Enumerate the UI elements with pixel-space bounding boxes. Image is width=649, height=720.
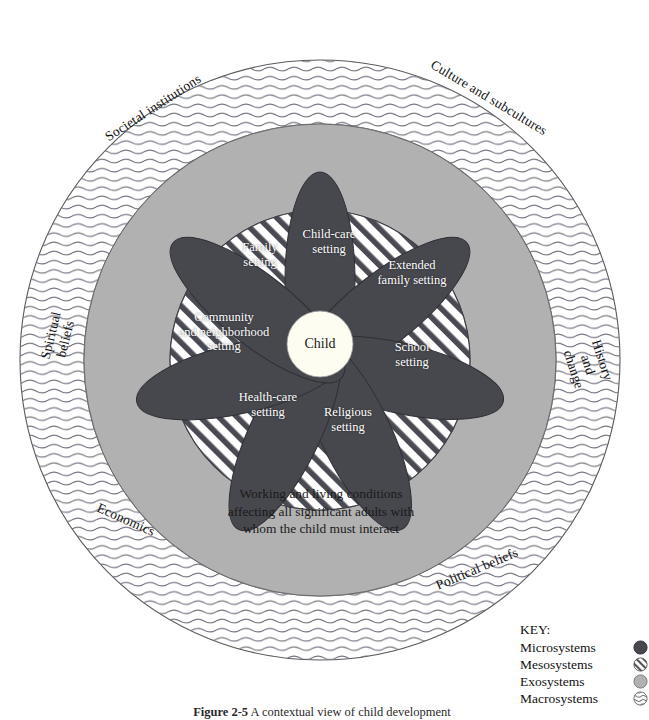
label-child-care-setting: Child-care setting [287, 227, 371, 256]
health-care-line-1: Health-care [222, 390, 314, 405]
figure-caption-text: A contextual view of child development [251, 705, 451, 719]
legend-label-exosystems: Exosystems [520, 674, 632, 690]
solid-dark-circle-icon [632, 639, 649, 656]
community-line-2: and neighborhood [163, 325, 285, 340]
child-care-line-1: Child-care [287, 227, 371, 242]
community-line-3: setting [163, 339, 285, 354]
legend-label-microsystems: Microsystems [520, 640, 632, 656]
family-line-2: setting [218, 255, 302, 270]
extended-line-1: Extended [359, 258, 465, 273]
child-label: Child [280, 336, 360, 352]
figure-caption: Figure 2-5 A contextual view of child de… [0, 705, 644, 720]
label-health-care-setting: Health-care setting [222, 390, 314, 419]
label-extended-family-setting: Extended family setting [359, 258, 465, 287]
exosystem-line-2: affecting all significant adults with [176, 503, 466, 521]
child-care-line-2: setting [287, 242, 371, 257]
label-community-setting: Community and neighborhood setting [163, 310, 285, 354]
exosystem-line-3: whom the child must interact [176, 520, 466, 538]
community-line-1: Community [163, 310, 285, 325]
exosystem-description: Working and living conditions affecting … [176, 485, 466, 538]
legend-row-mesosystems: Mesosystems [520, 656, 649, 673]
health-care-line-2: setting [222, 405, 314, 420]
religious-line-2: setting [306, 420, 390, 435]
label-school-setting: School setting [370, 340, 454, 369]
legend-label-mesosystems: Mesosystems [520, 657, 632, 673]
hatched-circle-icon [632, 656, 649, 673]
religious-line-1: Religious [306, 405, 390, 420]
legend-row-microsystems: Microsystems [520, 639, 649, 656]
exosystem-line-1: Working and living conditions [176, 485, 466, 503]
figure-caption-label: Figure 2-5 [193, 705, 248, 719]
legend: KEY: Microsystems Mesosystems Exosystems… [520, 622, 649, 707]
legend-row-exosystems: Exosystems [520, 673, 649, 690]
gray-circle-icon [632, 673, 649, 690]
extended-line-2: family setting [359, 273, 465, 288]
school-line-2: setting [370, 355, 454, 370]
label-religious-setting: Religious setting [306, 405, 390, 434]
legend-title: KEY: [520, 622, 649, 638]
school-line-1: School [370, 340, 454, 355]
